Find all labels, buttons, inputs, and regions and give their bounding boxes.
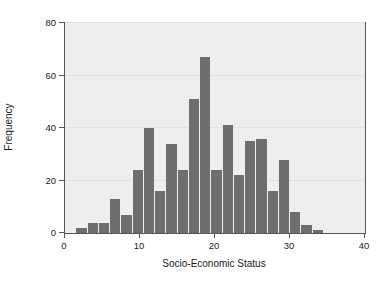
histogram-bar [155,191,165,233]
histogram-bar [290,212,300,233]
plot-area [64,22,366,234]
y-axis-tick-label: 60 [45,69,56,80]
x-axis-tick-mark [364,233,365,238]
histogram-bar [178,170,188,233]
y-axis-title-container: Frequency [0,22,16,232]
histogram-bar [200,57,210,233]
histogram-bar [189,99,199,233]
histogram-bar [88,223,98,234]
y-axis-tick-label: 20 [45,174,56,185]
x-axis-tick-mark [139,233,140,238]
histogram-bar [268,191,278,233]
y-axis-tick-label: 40 [45,122,56,133]
x-axis-tick-label: 20 [209,240,220,251]
histogram-bar [223,125,233,233]
histogram-figure: Frequency 020406080 010203040 Socio-Econ… [0,0,382,307]
x-axis-tick-label: 40 [359,240,370,251]
histogram-bar [234,175,244,233]
y-axis-tick-label: 0 [51,227,56,238]
histogram-bar [211,170,221,233]
histogram-bar [144,128,154,233]
x-axis-tick-mark [214,233,215,238]
x-axis-tick-mark [289,233,290,238]
histogram-bar [256,139,266,234]
x-axis-tick-label: 10 [134,240,145,251]
histogram-bar [245,141,255,233]
x-axis-tick-mark [64,233,65,238]
y-axis-tick-labels: 020406080 [34,22,56,232]
y-axis-title: Frequency [3,103,14,150]
x-axis-tick-marks [64,233,364,239]
histogram-bar [99,223,109,234]
x-axis-title: Socio-Economic Status [64,258,364,269]
y-axis-tick-label: 80 [45,17,56,28]
histogram-bar [166,144,176,233]
histogram-bar [279,160,289,234]
histogram-bar [301,225,311,233]
x-axis-tick-label: 0 [61,240,66,251]
x-axis-tick-labels: 010203040 [64,240,364,254]
histogram-bar [133,170,143,233]
histogram-bars [65,23,365,233]
histogram-bar [110,199,120,233]
histogram-bar [121,215,131,233]
x-axis-tick-label: 30 [284,240,295,251]
